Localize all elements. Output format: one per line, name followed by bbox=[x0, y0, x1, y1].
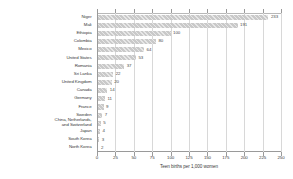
category-label-line: Germany bbox=[74, 96, 91, 101]
x-axis-title: Teen births per 1,000 women bbox=[97, 164, 281, 170]
bar-value-label: 9 bbox=[106, 105, 108, 109]
bar-value-label: 37 bbox=[127, 64, 132, 68]
bar-value-label: 22 bbox=[116, 72, 121, 76]
category-label: South Korea bbox=[0, 136, 94, 144]
bar-value-label: 100 bbox=[173, 31, 180, 35]
tick-top-100 bbox=[171, 9, 172, 13]
bar-row: 11 bbox=[97, 96, 281, 101]
bar bbox=[97, 23, 238, 28]
teen-births-bar-chart: NigerMaliEthiopiaColombiaMexicoUnited St… bbox=[0, 0, 293, 179]
bar bbox=[97, 39, 156, 44]
tick-top-75 bbox=[152, 9, 153, 13]
category-axis-labels: NigerMaliEthiopiaColombiaMexicoUnited St… bbox=[0, 13, 94, 152]
x-tick-label-75: 75 bbox=[150, 155, 155, 160]
tick-top-175 bbox=[226, 9, 227, 13]
bar-row: 3 bbox=[97, 137, 281, 142]
category-label: Niger bbox=[0, 13, 94, 21]
category-label: United States bbox=[0, 54, 94, 62]
x-tick-label-200: 200 bbox=[241, 155, 248, 160]
category-label: Germany bbox=[0, 95, 94, 103]
category-label: North Korea bbox=[0, 144, 94, 152]
bar-row: 64 bbox=[97, 47, 281, 52]
tick-top-250 bbox=[281, 9, 282, 13]
bar-value-label: 2 bbox=[101, 146, 103, 150]
tick-top-125 bbox=[189, 9, 190, 13]
tick-top-200 bbox=[244, 9, 245, 13]
bar bbox=[97, 31, 171, 36]
category-label-line: Canada bbox=[77, 88, 92, 93]
tick-top-25 bbox=[115, 9, 116, 13]
x-tick-label-50: 50 bbox=[131, 155, 136, 160]
category-label-line: Mali bbox=[84, 23, 92, 28]
bar-row: 14 bbox=[97, 88, 281, 93]
category-label: Mexico bbox=[0, 46, 94, 54]
bar-value-label: 233 bbox=[271, 15, 278, 19]
x-axis-tick-labels: 0255075100125150175200225250 bbox=[97, 155, 281, 163]
bar-value-label: 14 bbox=[110, 88, 115, 92]
bar-row: 37 bbox=[97, 64, 281, 69]
category-label-line: France bbox=[78, 105, 91, 110]
x-tick-label-225: 225 bbox=[259, 155, 266, 160]
category-label: China, Netherlands,and Switzerland bbox=[0, 119, 94, 127]
bar-value-label: 64 bbox=[147, 48, 152, 52]
bar bbox=[97, 64, 124, 69]
category-label-line: Niger bbox=[82, 15, 92, 20]
category-label: France bbox=[0, 103, 94, 111]
bar-value-label: 5 bbox=[103, 121, 105, 125]
category-label-line: Colombia bbox=[74, 39, 92, 44]
bar-row: 100 bbox=[97, 31, 281, 36]
bar bbox=[97, 72, 113, 77]
bar-row: 9 bbox=[97, 104, 281, 109]
bar-row: 2 bbox=[97, 145, 281, 150]
category-label: Sri Lanka bbox=[0, 70, 94, 78]
category-label-line: North Korea bbox=[69, 145, 92, 150]
bar-value-label: 11 bbox=[108, 97, 112, 101]
bar-row: 233 bbox=[97, 15, 281, 20]
category-label: Japan bbox=[0, 127, 94, 135]
category-label-line: Mexico bbox=[78, 47, 91, 52]
bar-row: 4 bbox=[97, 129, 281, 134]
bar-value-label: 20 bbox=[114, 80, 119, 84]
category-label: Romania bbox=[0, 62, 94, 70]
bar-row: 22 bbox=[97, 72, 281, 77]
x-tick-label-0: 0 bbox=[96, 155, 98, 160]
category-label-line: Ethiopia bbox=[76, 31, 91, 36]
category-label: Ethiopia bbox=[0, 29, 94, 37]
bar bbox=[97, 80, 112, 85]
tick-top-150 bbox=[207, 9, 208, 13]
bar-value-label: 4 bbox=[102, 129, 104, 133]
category-label-line: United States bbox=[66, 56, 91, 61]
bar-row: 7 bbox=[97, 113, 281, 118]
x-tick-label-100: 100 bbox=[167, 155, 174, 160]
bar-row: 80 bbox=[97, 39, 281, 44]
category-label-line: Sri Lanka bbox=[74, 72, 92, 77]
bar bbox=[97, 47, 144, 52]
tick-top-50 bbox=[134, 9, 135, 13]
bar-row: 20 bbox=[97, 80, 281, 85]
bar-value-label: 3 bbox=[102, 138, 104, 142]
category-label-line: South Korea bbox=[68, 137, 91, 142]
bar bbox=[97, 88, 107, 93]
bar bbox=[97, 15, 268, 20]
gridline-250 bbox=[281, 13, 282, 152]
bar-value-label: 7 bbox=[105, 113, 107, 117]
category-label: Mali bbox=[0, 21, 94, 29]
gridline-0 bbox=[97, 13, 98, 152]
bar-value-label: 53 bbox=[139, 56, 144, 60]
plot-area: 2331911008064533722201411975432 bbox=[97, 13, 281, 152]
bar-row: 191 bbox=[97, 23, 281, 28]
x-tick-label-125: 125 bbox=[185, 155, 192, 160]
bar-value-label: 191 bbox=[240, 23, 247, 27]
x-tick-label-175: 175 bbox=[222, 155, 229, 160]
category-label: United Kingdom bbox=[0, 78, 94, 86]
category-label: Canada bbox=[0, 87, 94, 95]
category-label: Colombia bbox=[0, 38, 94, 46]
bar-value-label: 80 bbox=[158, 39, 163, 43]
x-tick-label-250: 250 bbox=[277, 155, 284, 160]
bar-row: 53 bbox=[97, 55, 281, 60]
tick-top-225 bbox=[263, 9, 264, 13]
x-tick-label-25: 25 bbox=[113, 155, 118, 160]
bar bbox=[97, 96, 105, 101]
category-label-line: United Kingdom bbox=[62, 80, 92, 85]
category-label-line: Romania bbox=[75, 64, 92, 69]
